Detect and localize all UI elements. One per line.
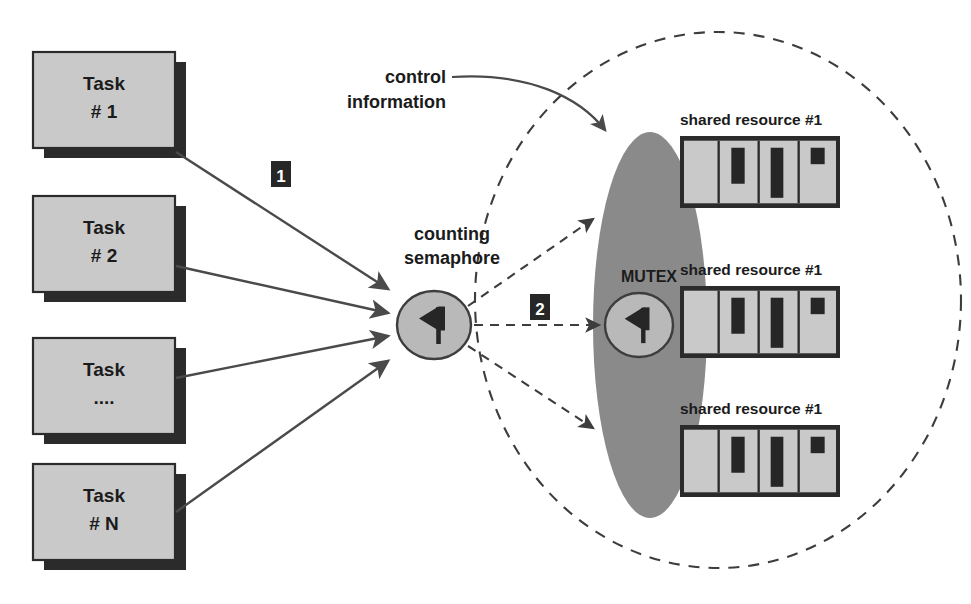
task-to-semaphore-arrows bbox=[176, 152, 388, 512]
task-node-1[interactable]: Task # 1 bbox=[33, 52, 186, 158]
semaphore-label-line1: counting bbox=[414, 224, 490, 244]
task-label-line1: Task bbox=[83, 485, 125, 506]
resource-rack-icon bbox=[682, 138, 838, 205]
mutex-label: MUTEX bbox=[621, 268, 677, 285]
task-label-line1: Task bbox=[83, 359, 125, 380]
resource-label: shared resource #1 bbox=[680, 400, 823, 417]
resource-label: shared resource #1 bbox=[680, 111, 823, 128]
shared-resource-2[interactable]: shared resource #1 bbox=[680, 261, 838, 356]
task-label-line2: .... bbox=[93, 387, 114, 408]
diagram-canvas: Task # 1 Task # 2 Task .... Task # N bbox=[0, 0, 971, 604]
arrow-task2-to-semaphore bbox=[176, 266, 388, 313]
task-label-line2: # 2 bbox=[91, 245, 117, 266]
task-node-3[interactable]: Task .... bbox=[33, 338, 186, 444]
counting-semaphore-node[interactable]: counting semaphore bbox=[397, 224, 500, 359]
task-label-line2: # 1 bbox=[91, 101, 118, 122]
task-box bbox=[33, 196, 175, 292]
resource-rack-icon bbox=[682, 288, 838, 355]
dashed-arrow-lower bbox=[468, 346, 593, 428]
task-node-2[interactable]: Task # 2 bbox=[33, 196, 186, 302]
control-label-line2: information bbox=[347, 92, 446, 112]
task-box bbox=[33, 464, 175, 560]
control-information-callout: control information bbox=[347, 67, 605, 130]
task-node-4[interactable]: Task # N bbox=[33, 464, 186, 570]
shared-resource-1[interactable]: shared resource #1 bbox=[680, 111, 838, 206]
badge-label: 1 bbox=[276, 167, 285, 186]
step-badge-2: 2 bbox=[530, 294, 550, 320]
shared-resource-3[interactable]: shared resource #1 bbox=[680, 400, 838, 495]
semaphore-diagram: Task # 1 Task # 2 Task .... Task # N bbox=[0, 0, 971, 604]
control-label-line1: control bbox=[385, 67, 446, 87]
semaphore-label-line2: semaphore bbox=[404, 248, 500, 268]
step-badge-1: 1 bbox=[271, 161, 291, 187]
resource-label: shared resource #1 bbox=[680, 261, 823, 278]
control-leader-line bbox=[452, 76, 605, 130]
task-box bbox=[33, 338, 175, 434]
task-label-line1: Task bbox=[83, 217, 125, 238]
task-box bbox=[33, 52, 175, 148]
task-label-line1: Task bbox=[83, 73, 125, 94]
task-label-line2: # N bbox=[89, 513, 119, 534]
badge-label: 2 bbox=[535, 300, 544, 319]
arrow-task3-to-semaphore bbox=[176, 336, 388, 378]
resource-rack-icon bbox=[682, 427, 838, 494]
arrow-task4-to-semaphore bbox=[176, 361, 388, 512]
